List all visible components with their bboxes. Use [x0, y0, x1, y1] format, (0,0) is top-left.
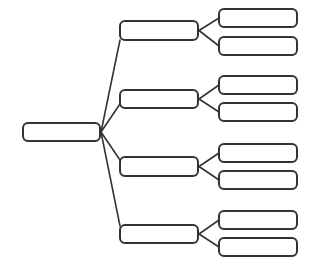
branch-to-leaf-connector: [199, 234, 219, 247]
branch-to-leaf-connector: [199, 31, 219, 47]
branch-to-leaf-connector: [199, 220, 219, 234]
branch-node: [119, 156, 199, 177]
leaf-node: [218, 102, 298, 122]
branch-node: [119, 20, 199, 41]
branch-node: [119, 89, 199, 109]
tree-diagram: [0, 0, 319, 271]
leaf-node: [218, 143, 298, 163]
leaf-node: [218, 75, 298, 95]
branch-to-leaf-connector: [199, 99, 219, 112]
branch-node: [119, 224, 199, 244]
leaf-node: [218, 36, 298, 56]
branch-to-leaf-connector: [199, 18, 219, 31]
leaf-node: [218, 170, 298, 190]
leaf-node: [218, 210, 298, 230]
branch-to-leaf-connector: [199, 153, 219, 167]
branch-to-leaf-connector: [199, 85, 219, 99]
branch-to-leaf-connector: [199, 167, 219, 181]
leaf-node: [218, 237, 298, 257]
leaf-node: [218, 8, 298, 28]
root-node: [22, 122, 101, 142]
